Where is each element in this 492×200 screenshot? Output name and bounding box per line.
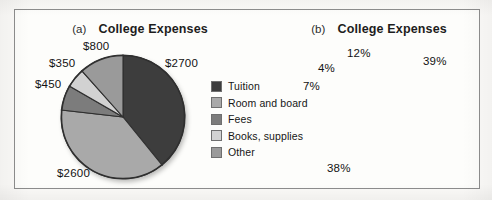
panel-a-heading: (a) College Expenses	[15, 22, 265, 36]
legend-swatch-books-supplies	[211, 130, 222, 141]
panel-a-letter: (a)	[72, 23, 86, 35]
pie-chart-a	[61, 55, 185, 179]
pie-a-label-fees: $450	[35, 78, 61, 90]
legend-label-tuition: Tuition	[228, 80, 260, 92]
chart-panel-b: (b) College Expenses	[265, 10, 492, 188]
pie-b-label-books: 4%	[318, 62, 335, 74]
pie-a-label-room-board: $2600	[57, 167, 90, 179]
chart-panel-a: (a) College Expenses $800 $350 $450 $270…	[15, 10, 265, 188]
figure-container: (a) College Expenses $800 $350 $450 $270…	[0, 0, 492, 200]
panel-a-title: College Expenses	[98, 22, 207, 36]
pie-a-slices	[61, 55, 185, 179]
panel-b-title: College Expenses	[337, 22, 446, 36]
legend-swatch-room-and-board	[211, 97, 222, 108]
pie-a-label-other: $800	[83, 40, 109, 52]
pie-a-disc	[61, 55, 185, 179]
legend-label-other: Other	[228, 146, 255, 158]
legend-swatch-fees	[211, 114, 222, 125]
legend-label-fees: Fees	[228, 113, 252, 125]
legend-swatch-tuition	[211, 81, 222, 92]
figure-border: (a) College Expenses $800 $350 $450 $270…	[14, 9, 480, 189]
panel-b-heading: (b) College Expenses	[265, 22, 492, 36]
pie-b-label-tuition: 39%	[423, 55, 447, 67]
pie-b-label-room-board: 38%	[327, 162, 351, 174]
legend-swatch-other	[211, 147, 222, 158]
pie-b-label-fees: 7%	[303, 80, 320, 92]
panel-b-letter: (b)	[311, 23, 325, 35]
pie-a-label-books: $350	[49, 57, 75, 69]
pie-b-label-other: 12%	[347, 47, 371, 59]
pie-a-label-tuition: $2700	[165, 57, 198, 69]
